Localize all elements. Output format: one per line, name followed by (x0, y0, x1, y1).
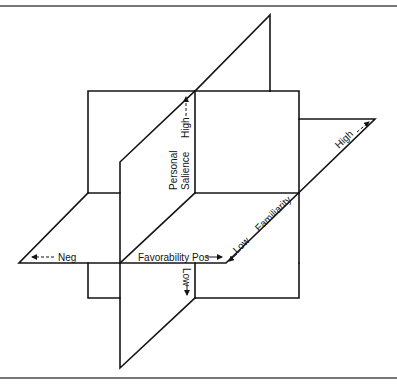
familiarity-axis-label: Familiarity (253, 194, 293, 234)
favorability-neg-marker: Neg (32, 252, 76, 263)
horizontal-plane (19, 119, 375, 263)
salience-high-label: High (180, 117, 191, 138)
salience-axis-label-line2: Salience (180, 151, 191, 190)
three-plane-diagram: Neg Favorability Pos Personal Salience H… (0, 0, 397, 384)
favorability-pos-marker: Pos (192, 252, 222, 263)
familiarity-low-label: Low (231, 234, 252, 255)
favorability-neg-label: Neg (58, 252, 76, 263)
familiarity-high-label: High (333, 128, 355, 150)
familiarity-high-marker: High (333, 122, 369, 150)
favorability-axis-label: Favorability (138, 252, 189, 263)
salience-axis-label-line1: Personal (168, 151, 179, 190)
salience-low-marker: Low (181, 268, 192, 295)
